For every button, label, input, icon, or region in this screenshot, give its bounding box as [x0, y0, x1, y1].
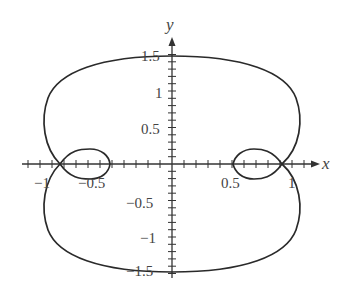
y-tick-label: 1 [155, 85, 163, 101]
y-tick-label: 0.5 [141, 121, 160, 137]
x-tick-label: −1 [34, 175, 50, 191]
x-tick-label: 1 [288, 175, 296, 191]
y-axis-label: y [164, 15, 174, 34]
x-tick-label: 0.5 [221, 175, 240, 191]
x-tick-label: −0.5 [78, 175, 105, 191]
y-tick-label: −1 [140, 230, 156, 246]
x-axis-label: x [321, 154, 330, 173]
y-tick-label: −0.5 [126, 195, 153, 211]
plot-canvas: y x −1 −0.5 0.5 1 1.5 1 0.5 −0.5 −1 −1.5 [0, 0, 346, 297]
y-axis-arrow-icon [169, 37, 176, 46]
y-tick-label: −1.5 [126, 263, 153, 279]
y-tick-label: 1.5 [141, 48, 160, 64]
x-axis-arrow-icon [311, 161, 320, 168]
